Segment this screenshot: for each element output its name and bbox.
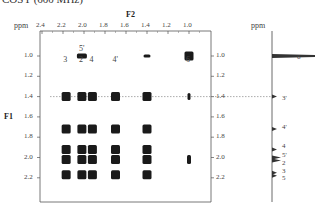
y-tick-label-right: 2.0 (216, 153, 225, 161)
cross-peak (62, 155, 71, 164)
y-tick-label-right: 1.6 (216, 112, 225, 120)
x-tick-label: 2.2 (57, 21, 66, 29)
y-tick-label-right: 1.0 (216, 51, 225, 59)
peak-label: 4' (113, 55, 118, 64)
cross-peak (143, 155, 152, 164)
cross-peak (143, 125, 152, 134)
cross-peak (111, 155, 120, 164)
cross-peak (62, 125, 71, 134)
cross-peak (88, 92, 97, 101)
cross-peak (143, 145, 152, 154)
cross-peak (62, 92, 71, 101)
projection-peak-label: 2 (282, 159, 286, 167)
cross-peak (144, 55, 151, 58)
projection-peak (272, 127, 277, 131)
cosy-plot (0, 0, 315, 212)
x-tick-label: 2.4 (36, 21, 45, 29)
y-tick-label-left: 1.0 (24, 51, 33, 59)
cross-peak (77, 125, 86, 134)
peak-label: 5' (79, 44, 84, 53)
peak-label: 6 (186, 55, 190, 64)
cross-peak (77, 170, 86, 179)
y-tick-label-left: 2.0 (24, 153, 33, 161)
cross-peak (62, 170, 71, 179)
peak-label: 3 (63, 55, 67, 64)
cross-peak (188, 93, 191, 100)
projection-peak (272, 54, 315, 58)
cross-peak (88, 155, 97, 164)
projection-peak-label: 4 (282, 142, 286, 150)
y-tick-label-left: 1.2 (24, 71, 33, 79)
x-tick-label: 1.2 (162, 21, 171, 29)
cross-peak (111, 92, 120, 101)
cross-peak (187, 155, 191, 164)
cross-peak (111, 170, 120, 179)
projection-peak-label: 4' (282, 123, 287, 131)
y-tick-label-left: 1.6 (24, 112, 33, 120)
cross-peak (77, 145, 86, 154)
x-tick-label: 2.0 (78, 21, 87, 29)
projection-peak-label: 6 (297, 53, 301, 61)
x-tick-label: 1.0 (183, 21, 192, 29)
x-tick-label: 1.4 (141, 21, 150, 29)
cross-peak (77, 155, 86, 164)
peak-label: 2 (79, 55, 83, 64)
cross-peak (77, 92, 86, 101)
cross-peak (88, 145, 97, 154)
projection-peak-label: 3' (282, 94, 287, 102)
peak-label: 4 (89, 55, 93, 64)
y-axis-title: F1 (4, 112, 13, 121)
projection-peak (272, 174, 277, 178)
y-tick-label-right: 1.2 (216, 71, 225, 79)
cross-peak (88, 170, 97, 179)
projection-peak-label: 5 (282, 174, 286, 182)
x-unit-label: ppm (14, 21, 28, 30)
y-tick-label-left: 2.2 (24, 173, 33, 181)
y-tick-label-right: 1.4 (216, 92, 225, 100)
projection-peak-label: 5' (282, 151, 287, 159)
y-tick-label-left: 1.8 (24, 132, 33, 140)
cross-peak (111, 125, 120, 134)
projection-peak (272, 147, 277, 151)
cross-peak (143, 170, 152, 179)
x-tick-label: 1.8 (99, 21, 108, 29)
projection-peak (272, 159, 281, 163)
x-tick-label: 1.6 (120, 21, 129, 29)
projection-peak (272, 95, 277, 99)
projection-unit-label: ppm (251, 21, 265, 30)
x-axis-title: F2 (126, 10, 135, 19)
cross-peak (111, 145, 120, 154)
cross-peak (62, 145, 71, 154)
cross-peak (143, 92, 152, 101)
cross-peak (88, 125, 97, 134)
y-tick-label-right: 2.2 (216, 173, 225, 181)
y-tick-label-right: 1.8 (216, 132, 225, 140)
y-tick-label-left: 1.4 (24, 92, 33, 100)
